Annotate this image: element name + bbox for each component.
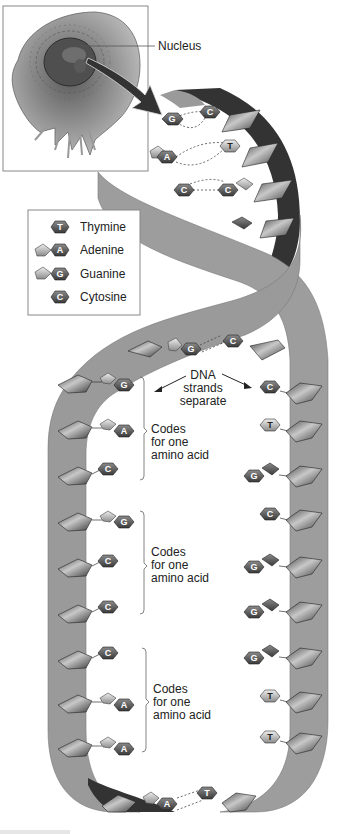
svg-text:G: G [250, 562, 257, 572]
legend-label: Guanine [80, 267, 126, 281]
svg-text:Codes: Codes [153, 682, 188, 696]
base-letter: T [227, 141, 233, 151]
svg-text:C: C [267, 509, 274, 519]
svg-text:C: C [267, 382, 274, 392]
base-letter: A [164, 152, 171, 162]
codon-bracket-2: Codes for one amino acid [140, 511, 209, 614]
legend-item-cytosine: C Cytosine [51, 290, 127, 304]
svg-text:T: T [267, 420, 273, 430]
base-letter: C [225, 185, 232, 195]
svg-text:Codes: Codes [151, 422, 186, 436]
svg-text:G: G [250, 607, 257, 617]
svg-text:T: T [267, 691, 273, 701]
svg-text:strands: strands [183, 381, 222, 395]
svg-text:A: A [121, 700, 128, 710]
base-letter: C [207, 107, 214, 117]
svg-text:G: G [250, 653, 257, 663]
svg-text:for one: for one [153, 695, 191, 709]
svg-text:DNA: DNA [190, 368, 215, 382]
separation-annotation: DNA strands separate [154, 368, 252, 408]
base-letter: C [230, 336, 237, 346]
svg-text:amino acid: amino acid [151, 571, 209, 585]
svg-text:for one: for one [151, 435, 189, 449]
base-letter: G [187, 344, 194, 354]
legend-item-thymine: T Thymine [51, 220, 126, 234]
svg-text:C: C [105, 556, 112, 566]
svg-text:T: T [57, 222, 63, 232]
svg-text:A: A [57, 245, 64, 255]
svg-text:G: G [120, 380, 127, 390]
svg-text:C: C [105, 602, 112, 612]
svg-text:C: C [105, 464, 112, 474]
legend: T Thymine A Adenine G Guanine C Cytosine [28, 210, 140, 315]
svg-text:A: A [164, 799, 171, 809]
bottom-strip [0, 830, 70, 834]
svg-text:G: G [56, 269, 63, 279]
helix-pair-4 [232, 217, 294, 238]
svg-text:A: A [121, 426, 128, 436]
legend-label: Thymine [80, 220, 126, 234]
svg-text:Codes: Codes [151, 545, 186, 559]
dna-replication-diagram: G C A T C C [0, 0, 343, 834]
nucleus-label: Nucleus [158, 39, 201, 53]
base-letter: C [181, 185, 188, 195]
svg-text:amino acid: amino acid [153, 708, 211, 722]
svg-text:for one: for one [151, 558, 189, 572]
cell-illustration-panel [3, 6, 162, 171]
base-letter: G [168, 114, 175, 124]
svg-text:separate: separate [180, 394, 227, 408]
legend-label: Cytosine [80, 290, 127, 304]
svg-text:C: C [105, 648, 112, 658]
svg-text:C: C [57, 292, 64, 302]
bottom-pair: A T [102, 787, 256, 812]
svg-text:G: G [250, 471, 257, 481]
svg-text:T: T [267, 732, 273, 742]
legend-label: Adenine [80, 243, 124, 257]
svg-text:A: A [121, 744, 128, 754]
codon-bracket-3: Codes for one amino acid [142, 648, 211, 752]
svg-text:amino acid: amino acid [151, 448, 209, 462]
svg-text:T: T [204, 788, 210, 798]
svg-text:G: G [120, 517, 127, 527]
left-strand-nucleotides: G A C G C [58, 373, 134, 757]
right-strand-nucleotides: C T G C G [244, 381, 322, 754]
